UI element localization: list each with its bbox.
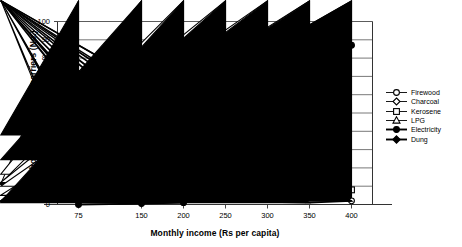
x-axis-title: Monthly income (Rs per capita) xyxy=(57,228,373,238)
legend-label: LPG xyxy=(408,117,425,124)
legend-item-charcoal[interactable]: Charcoal xyxy=(385,97,461,106)
filled-circle-icon xyxy=(385,125,408,134)
open-diamond-marker xyxy=(393,98,400,105)
y-tick-label: 70 xyxy=(24,71,50,80)
y-tick-label: 80 xyxy=(24,53,50,62)
y-tick-label: 10 xyxy=(24,181,50,190)
marker-open-diamond xyxy=(393,98,400,105)
x-tick-label: 75 xyxy=(59,211,99,220)
legend-label: Electricity xyxy=(408,126,441,133)
y-tick-label: 60 xyxy=(24,90,50,99)
line-chart-figure: Households using various carriers (No.) … xyxy=(0,0,462,247)
x-tick-label: 150 xyxy=(122,211,162,220)
open-square-icon xyxy=(385,107,408,116)
x-tick-label: 200 xyxy=(164,211,204,220)
open-diamond-icon xyxy=(385,97,408,106)
open-triangle-marker xyxy=(393,117,400,123)
y-tick-label: 20 xyxy=(24,163,50,172)
filled-diamond-marker xyxy=(393,135,400,142)
open-circle-icon xyxy=(385,88,408,97)
x-tick-label: 300 xyxy=(248,211,288,220)
legend-item-dung[interactable]: Dung xyxy=(385,134,461,143)
marker-open-triangle xyxy=(393,117,400,123)
legend-label: Charcoal xyxy=(408,98,439,105)
marker-open-square xyxy=(394,108,400,114)
y-tick-label: 100 xyxy=(24,17,50,26)
open-triangle-icon xyxy=(385,116,408,125)
y-tick-label: 50 xyxy=(24,108,50,117)
filled-diamond-icon xyxy=(385,135,408,144)
y-tick-label: 30 xyxy=(24,145,50,154)
legend-label: Dung xyxy=(408,136,428,143)
legend-label: Kerosene xyxy=(408,108,441,115)
x-tick-label: 350 xyxy=(290,211,330,220)
legend-item-firewood[interactable]: Firewood xyxy=(385,88,461,97)
series-dung xyxy=(1,1,352,203)
open-circle-marker xyxy=(394,90,400,96)
legend-item-electricity[interactable]: Electricity xyxy=(385,125,461,134)
legend-label: Firewood xyxy=(408,89,440,96)
x-tick-label: 400 xyxy=(332,211,372,220)
marker-filled-circle xyxy=(394,127,400,133)
marker-filled-diamond xyxy=(393,135,400,142)
filled-circle-marker xyxy=(394,127,400,133)
x-tick-label: 250 xyxy=(206,211,246,220)
legend-item-lpg[interactable]: LPG xyxy=(385,116,461,125)
open-square-marker xyxy=(394,108,400,114)
legend-item-kerosene[interactable]: Kerosene xyxy=(385,107,461,116)
marker-open-circle xyxy=(394,90,400,96)
y-tick-label: 40 xyxy=(24,126,50,135)
y-tick-label: 0 xyxy=(24,200,50,209)
y-tick-label: 90 xyxy=(24,35,50,44)
chart-legend: FirewoodCharcoalKeroseneLPGElectricityDu… xyxy=(385,88,461,144)
